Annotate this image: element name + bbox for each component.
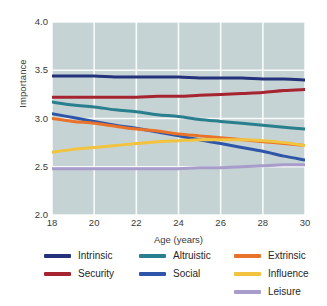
legend-label: Leisure (268, 286, 301, 297)
legend-swatch-security (44, 272, 71, 276)
plot-svg (52, 22, 305, 215)
legend-label: Altruistic (173, 250, 211, 261)
legend-label: Social (173, 268, 200, 279)
x-tick-label: 18 (39, 217, 65, 228)
y-tick-label: 3.5 (22, 64, 48, 75)
legend-swatch-leisure (234, 290, 261, 294)
y-tick-label: 4.0 (22, 16, 48, 27)
x-tick-label: 28 (250, 217, 276, 228)
legend-item-altruistic[interactable]: Altruistic (139, 250, 211, 261)
y-tick-label: 3.0 (22, 113, 48, 124)
line-chart: Importance 2.02.53.03.54.0 1820222426283… (0, 0, 327, 306)
legend-label: Security (78, 268, 114, 279)
y-tick-label: 2.5 (22, 161, 48, 172)
y-axis-ticks: 2.02.53.03.54.0 (20, 0, 48, 230)
legend-item-leisure[interactable]: Leisure (234, 286, 301, 297)
x-tick-label: 30 (292, 217, 318, 228)
legend-item-influence[interactable]: Influence (234, 268, 309, 279)
legend-swatch-social (139, 272, 166, 276)
chart-legend: IntrinsicSecurityAltruisticSocialExtrins… (44, 250, 327, 302)
legend-swatch-intrinsic (44, 254, 71, 258)
x-axis-label: Age (years) (52, 234, 305, 245)
legend-item-security[interactable]: Security (44, 268, 114, 279)
x-tick-label: 26 (208, 217, 234, 228)
legend-swatch-extrinsic (234, 254, 261, 258)
x-tick-label: 20 (81, 217, 107, 228)
x-tick-label: 22 (123, 217, 149, 228)
legend-swatch-altruistic (139, 254, 166, 258)
legend-label: Intrinsic (78, 250, 112, 261)
plot-area (52, 22, 305, 215)
x-tick-label: 24 (166, 217, 192, 228)
legend-item-extrinsic[interactable]: Extrinsic (234, 250, 306, 261)
legend-item-intrinsic[interactable]: Intrinsic (44, 250, 112, 261)
gridlines (52, 22, 305, 215)
legend-label: Extrinsic (268, 250, 306, 261)
legend-label: Influence (268, 268, 309, 279)
legend-swatch-influence (234, 272, 261, 276)
legend-item-social[interactable]: Social (139, 268, 200, 279)
